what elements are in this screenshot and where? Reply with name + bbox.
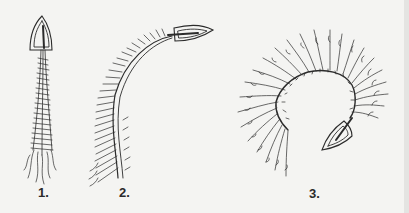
illustration <box>0 0 409 213</box>
figure-1-label: 1. <box>38 185 49 200</box>
figure-3-drawing <box>238 30 388 176</box>
iron-icon <box>30 16 52 50</box>
figure-1-drawing <box>24 16 56 184</box>
figure-3-label: 3. <box>309 186 320 201</box>
figure-2-drawing <box>89 26 213 186</box>
iron-icon <box>322 118 352 150</box>
page-edge <box>404 0 409 213</box>
figure-2-label: 2. <box>119 185 130 200</box>
iron-icon <box>168 26 213 41</box>
